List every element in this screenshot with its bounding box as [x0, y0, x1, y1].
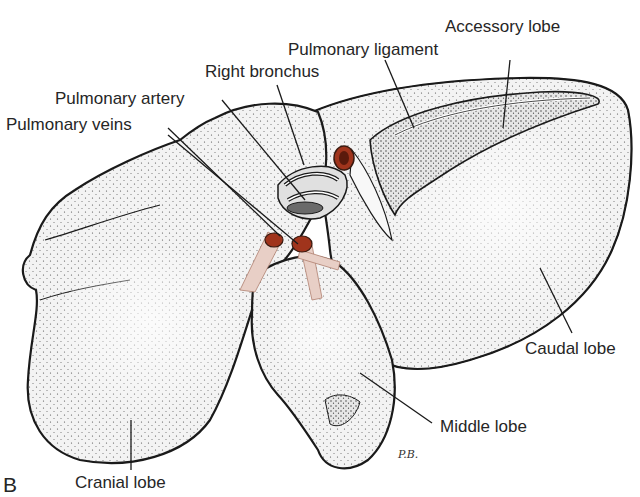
- label-pulmonary-veins: Pulmonary veins: [6, 116, 132, 133]
- label-pulmonary-artery: Pulmonary artery: [55, 90, 184, 107]
- lung-illustration: Accessory lobe Pulmonary ligament Right …: [0, 0, 640, 497]
- label-middle-lobe: Middle lobe: [440, 418, 527, 435]
- lung-drawing: [0, 0, 640, 497]
- label-cranial-lobe: Cranial lobe: [75, 474, 166, 491]
- label-caudal-lobe: Caudal lobe: [525, 340, 616, 357]
- label-accessory-lobe: Accessory lobe: [445, 18, 560, 35]
- label-pulmonary-ligament: Pulmonary ligament: [288, 41, 438, 58]
- panel-letter: B: [3, 474, 17, 495]
- label-right-bronchus: Right bronchus: [205, 63, 319, 80]
- artist-signature: P.B.: [398, 448, 418, 461]
- pulmonary-vein-shape-2: [292, 236, 312, 252]
- pulmonary-vein-shape-1: [265, 233, 283, 247]
